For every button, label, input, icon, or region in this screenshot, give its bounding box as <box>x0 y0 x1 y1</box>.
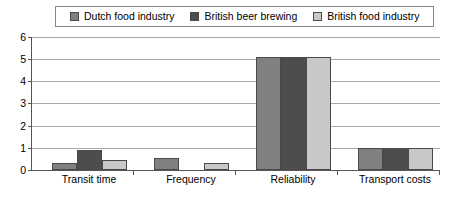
bar-british-beer-brewing <box>281 57 306 170</box>
bar-british-food-industry <box>306 57 331 170</box>
bar-british-food-industry <box>204 163 229 170</box>
bar-group-transit-time <box>45 37 133 170</box>
y-tick-label: 4 <box>3 76 26 87</box>
legend-swatch-icon <box>70 12 79 21</box>
x-axis-label-transport-costs: Transport costs <box>351 174 439 185</box>
bar-dutch-food-industry <box>256 57 281 170</box>
y-tick-label: 2 <box>3 121 26 132</box>
y-tick-label: 1 <box>3 143 26 154</box>
bar-dutch-food-industry <box>52 163 77 170</box>
legend-item-british-food-industry: British food industry <box>313 11 419 22</box>
chart-legend: Dutch food industry British beer brewing… <box>55 6 434 27</box>
x-axis-label-frequency: Frequency <box>147 174 235 185</box>
legend-swatch-icon <box>190 12 199 21</box>
bar-dutch-food-industry <box>154 158 179 170</box>
x-axis-label-transit-time: Transit time <box>45 174 133 185</box>
x-axis-label-reliability: Reliability <box>249 174 337 185</box>
legend-item-british-beer-brewing: British beer brewing <box>190 11 297 22</box>
legend-item-label: British food industry <box>327 11 419 22</box>
bar-british-beer-brewing <box>383 148 408 170</box>
y-tick-label: 3 <box>3 98 26 109</box>
y-tick-label: 6 <box>3 32 26 43</box>
bars-layer <box>31 37 440 170</box>
y-axis-line <box>31 37 32 171</box>
y-tick-label: 5 <box>3 54 26 65</box>
x-tick-mark <box>439 171 440 175</box>
bar-chart: Dutch food industry British beer brewing… <box>0 0 454 203</box>
legend-item-label: British beer brewing <box>204 11 297 22</box>
x-tick-mark <box>235 171 236 175</box>
bar-dutch-food-industry <box>358 148 383 170</box>
bar-group-transport-costs <box>351 37 439 170</box>
y-tick-label: 0 <box>3 165 26 176</box>
bar-british-beer-brewing <box>77 150 102 170</box>
legend-swatch-icon <box>313 12 322 21</box>
bar-british-food-industry <box>102 160 127 170</box>
bar-group-frequency <box>147 37 235 170</box>
x-tick-mark <box>337 171 338 175</box>
legend-item-dutch-food-industry: Dutch food industry <box>70 11 174 22</box>
bar-group-reliability <box>249 37 337 170</box>
x-tick-mark <box>133 171 134 175</box>
legend-item-label: Dutch food industry <box>84 11 174 22</box>
bar-british-food-industry <box>408 148 433 170</box>
